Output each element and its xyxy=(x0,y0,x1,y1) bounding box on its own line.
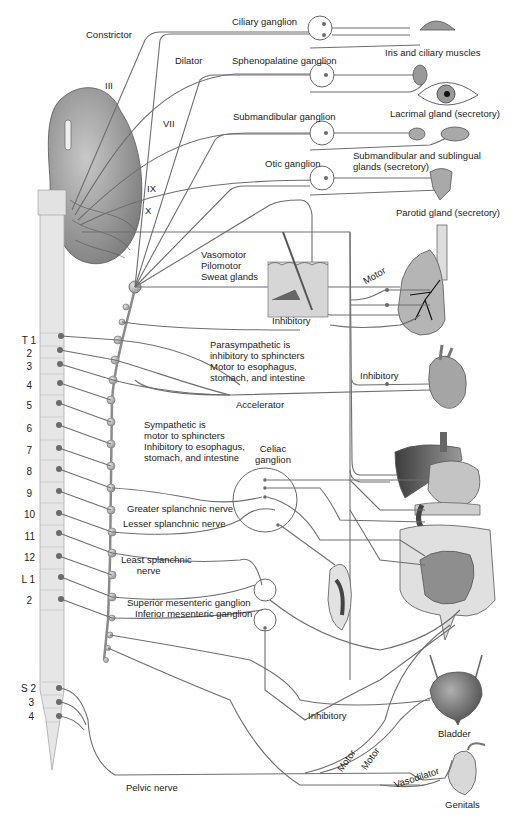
superior-mesenteric-label: Superior mesenteric ganglion xyxy=(127,597,251,608)
constrictor-label: Constrictor xyxy=(86,29,132,40)
segment-label: 3 xyxy=(0,361,32,372)
segment-label: 9 xyxy=(0,488,32,499)
genitals-illustration xyxy=(448,743,485,795)
cranial-nerve-III-label: III xyxy=(105,80,113,91)
bladder-illustration xyxy=(430,655,482,725)
otic-ganglion-label: Otic ganglion xyxy=(265,158,320,169)
least-splanchnic-label: Least splanchnic nerve xyxy=(121,554,192,576)
lung-illustration xyxy=(398,225,447,335)
sphenopalatine-ganglion-label: Sphenopalatine ganglion xyxy=(232,55,337,66)
submandibular-ganglion-label: Submandibular ganglion xyxy=(233,111,335,122)
segment-label: 5 xyxy=(0,400,32,411)
parotid-label: Parotid gland (secretory) xyxy=(396,207,500,218)
pelvic-nerve-label: Pelvic nerve xyxy=(126,782,178,793)
segment-label: 3 xyxy=(0,697,34,708)
segment-label: 4 xyxy=(0,711,34,722)
segment-label: S 2 xyxy=(0,683,36,694)
autonomic-nervous-system-diagram xyxy=(0,0,514,822)
cranial-nerve-VII-label: VII xyxy=(163,118,175,129)
adrenal-kidney-illustration xyxy=(328,564,351,630)
superior-mesenteric-ganglion xyxy=(254,579,276,601)
lacrimal-label: Lacrimal gland (secretory) xyxy=(390,108,500,119)
skin-effects-label: Vasomotor Pilomotor Sweat glands xyxy=(201,249,258,282)
segment-label: 6 xyxy=(0,423,32,434)
dilator-label: Dilator xyxy=(175,55,202,66)
greater-splanchnic-label: Greater splanchnic nerve xyxy=(127,503,233,514)
iris-label: Iris and ciliary muscles xyxy=(385,47,481,58)
celiac-ganglion-label: Celiac ganglion xyxy=(255,443,291,465)
accelerator-label: Accelerator xyxy=(236,399,284,410)
segment-label: 4 xyxy=(0,380,32,391)
bladder-label: Bladder xyxy=(438,728,471,739)
inhibitory-bladder-label: Inhibitory xyxy=(308,710,347,721)
celiac-ganglion xyxy=(233,468,297,532)
parasympathetic-note: Parasympathetic is inhibitory to sphinct… xyxy=(210,339,305,383)
inferior-mesenteric-ganglion xyxy=(254,609,276,631)
inhibitory-heart-label: Inhibitory xyxy=(360,370,399,381)
genitals-label: Genitals xyxy=(445,799,480,810)
segment-label: T 1 xyxy=(0,335,36,346)
sympathetic-note: Sympathetic is motor to sphincters Inhib… xyxy=(144,419,245,463)
segment-label: 2 xyxy=(0,348,32,359)
segment-label: 8 xyxy=(0,466,32,477)
lesser-splanchnic-label: Lesser splanchnic nerve xyxy=(123,518,225,529)
spinal-cord xyxy=(38,190,66,770)
segment-label: 11 xyxy=(0,531,35,542)
eye-illustration xyxy=(413,21,478,105)
segment-label: 2 xyxy=(0,595,32,606)
skin-illustration xyxy=(268,232,328,317)
cranial-nerve-X-label: X xyxy=(145,205,151,216)
segment-label: L 1 xyxy=(0,574,35,585)
intestine-illustration xyxy=(400,525,495,640)
heart-illustration xyxy=(429,345,467,408)
liver-stomach-illustration xyxy=(395,432,480,537)
inferior-mesenteric-label: Inferior mesenteric ganglion xyxy=(135,608,252,619)
submandibular-sublingual-label: Submandibular and sublingual glands (sec… xyxy=(353,150,481,172)
segment-label: 10 xyxy=(0,509,35,520)
segment-label: 7 xyxy=(0,445,32,456)
inhibitory-lung-label: Inhibitory xyxy=(272,315,311,326)
cranial-nerve-IX-label: IX xyxy=(147,183,156,194)
ciliary-ganglion-label: Ciliary ganglion xyxy=(232,16,297,27)
segment-label: 12 xyxy=(0,552,35,563)
